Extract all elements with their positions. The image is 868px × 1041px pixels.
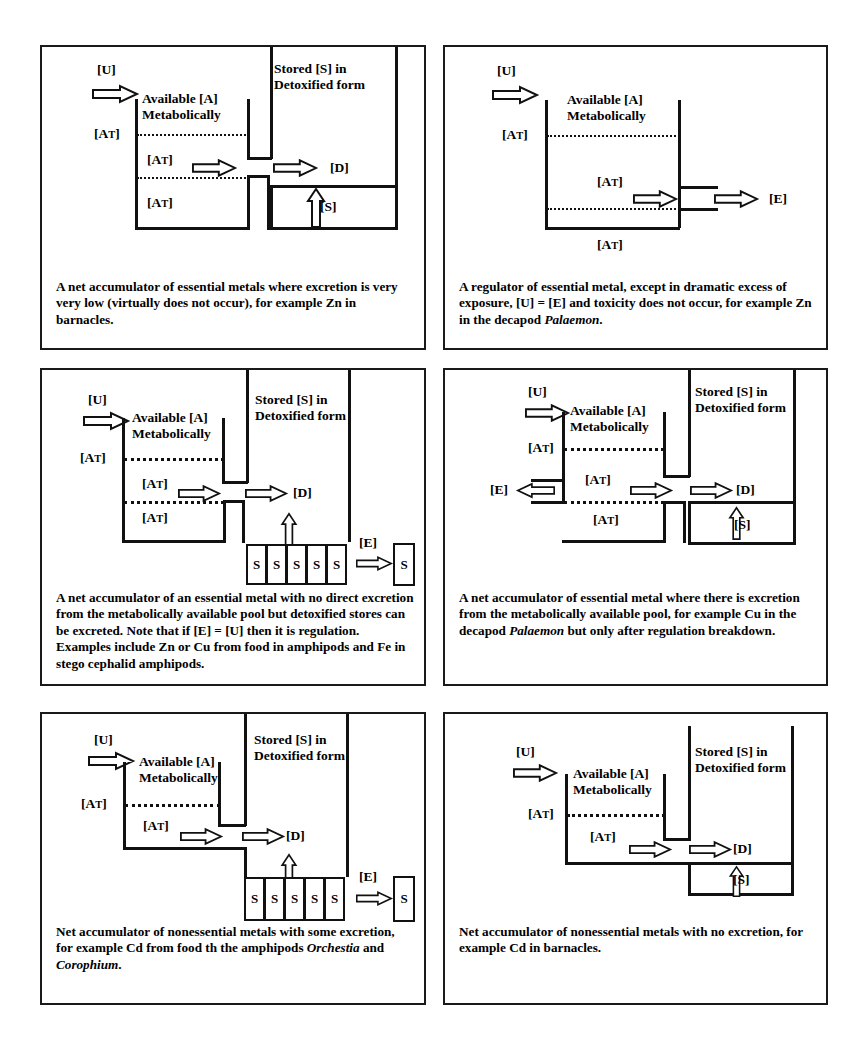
panel-4-stored-label: [S]	[734, 517, 751, 532]
pool-left-notch-lower	[531, 501, 565, 504]
store-block-label: S	[291, 891, 298, 907]
panel-5-at-middle: [AT]	[143, 818, 169, 834]
panel-2-caption-part-1: A regulator of essential metal, except i…	[459, 279, 812, 327]
store-block: S	[286, 544, 307, 585]
panel-6-pool-title: Available [A] Metabolically	[573, 766, 695, 797]
store-block-label: S	[293, 557, 300, 573]
panel-3-pool-title: Available [A] Metabolically	[132, 410, 252, 441]
pool-title-line1: Available [A]	[567, 92, 643, 107]
panel-4-diagram: [U] Available [A] Metabolically Stored […	[445, 370, 826, 585]
pool-gap-right-wall	[683, 501, 686, 543]
threshold-line-upper	[137, 134, 249, 136]
panel-4-excretion-label: [E]	[490, 482, 508, 497]
detox-flow-arrow-1-icon	[629, 841, 671, 858]
panel-1: [U] Available [A] Metabolically Stored […	[40, 45, 426, 350]
panel-2: [U] Available [A] Metabolically [AT] [AT…	[443, 45, 828, 350]
excretion-flow-arrow-2-icon	[714, 190, 758, 208]
store-block-label: S	[400, 557, 407, 573]
detox-flow-arrow-2-icon	[245, 485, 287, 502]
store-column-left-wall	[270, 47, 273, 159]
panel-5-caption-part-3: and	[360, 940, 385, 955]
excreted-store-block: S	[393, 876, 415, 922]
pool-right-wall-lower	[678, 186, 681, 228]
pool-left-wall-upper	[562, 412, 565, 481]
pool-title-line1: Available [A]	[139, 754, 215, 769]
pool-title-line2: Metabolically	[142, 107, 221, 122]
pool-title-line2: Metabolically	[139, 770, 218, 785]
detox-flow-arrow-1-icon	[192, 159, 236, 177]
panel-3-at-upper: [AT]	[80, 450, 106, 466]
panel-4-at-upper: [AT]	[528, 440, 554, 456]
detox-flow-arrow-2-icon	[689, 841, 731, 858]
pool-title-line1: Available [A]	[132, 410, 208, 425]
pool-title-line2: Metabolically	[570, 419, 649, 434]
panel-5-at-upper: [AT]	[81, 796, 107, 812]
panel-1-uptake-label: [U]	[97, 62, 116, 77]
panel-1-caption: A net accumulator of essential metals wh…	[56, 279, 414, 328]
panel-2-excretion-label: [E]	[769, 191, 787, 206]
store-column-left-lower	[244, 847, 247, 877]
panel-6: [U] Available [A] Metabolically Stored […	[443, 712, 828, 1005]
store-block: S	[304, 877, 325, 921]
panel-2-at-middle: [AT]	[597, 174, 623, 190]
store-title-line2: Detoxified form	[695, 760, 786, 775]
pool-right-wall-foot	[218, 824, 246, 827]
panel-1-detox-label: [D]	[330, 160, 349, 175]
pool-right-wall	[218, 762, 221, 826]
excretion-arrow-icon	[356, 890, 392, 907]
detox-flow-arrow-1-icon	[180, 828, 222, 845]
threshold-line-lower	[547, 208, 680, 210]
panel-6-detox-label: [D]	[733, 841, 752, 856]
excreted-store-block: S	[393, 543, 415, 586]
store-release-up-arrow-icon	[280, 513, 298, 547]
store-right-wall	[791, 726, 794, 896]
pool-left-wall	[135, 99, 138, 230]
store-block: S	[244, 877, 265, 921]
panel-3-diagram: [U] Available [A] Metabolically Stored […	[42, 370, 424, 585]
panel-2-pool-title: Available [A] Metabolically	[567, 92, 692, 123]
store-block-label: S	[331, 891, 338, 907]
panel-1-pool-title: Available [A] Metabolically	[142, 91, 262, 122]
store-fill-level	[270, 185, 398, 188]
panel-6-uptake-label: [U]	[516, 744, 535, 759]
pool-floor	[565, 862, 688, 865]
panel-3-uptake-label: [U]	[88, 392, 107, 407]
pool-gap-right-wall	[242, 500, 245, 543]
panel-5-caption-part-5: .	[118, 957, 121, 972]
panel-2-caption-part-3: .	[599, 312, 602, 327]
store-left-lower-wall	[270, 185, 273, 230]
pool-right-wall-foot	[222, 481, 248, 484]
pool-floor	[545, 227, 680, 230]
panel-3-detox-label: [D]	[293, 485, 312, 500]
store-block-label: S	[251, 891, 258, 907]
store-block: S	[324, 877, 345, 921]
panel-4: [U] Available [A] Metabolically Stored […	[443, 368, 828, 686]
pool-right-wall	[247, 99, 250, 159]
store-title-line1: Stored [S] in	[254, 732, 327, 747]
panel-5-caption-species-2: Corophium	[56, 957, 118, 972]
panel-5-pool-title: Available [A] Metabolically	[139, 754, 259, 785]
panel-6-at-middle: [AT]	[590, 829, 616, 845]
pool-title-line2: Metabolically	[132, 426, 211, 441]
excretion-arrow-icon	[356, 555, 392, 572]
threshold-line-upper	[547, 135, 680, 137]
pool-floor	[122, 540, 225, 543]
store-block-label: S	[400, 891, 407, 907]
panel-6-diagram: [U] Available [A] Metabolically Stored […	[445, 714, 826, 914]
panel-3-caption: A net accumulator of an essential metal …	[56, 590, 414, 672]
store-title-line2: Detoxified form	[695, 400, 786, 415]
store-fill-level	[688, 501, 796, 504]
store-block-label: S	[313, 557, 320, 573]
pool-title-line1: Available [A]	[142, 91, 218, 106]
pool-right-wall-upper	[678, 100, 681, 188]
panel-6-caption: Net accumulator of nonessential metals w…	[459, 924, 816, 957]
threshold-line	[567, 814, 665, 817]
panel-4-store-title: Stored [S] in Detoxified form	[695, 384, 830, 415]
store-column-left-wall	[244, 714, 247, 826]
panel-5-store-title: Stored [S] in Detoxified form	[254, 732, 392, 763]
store-floor	[688, 542, 796, 545]
detox-flow-arrow-1-icon	[178, 485, 220, 502]
pool-left-wall-lower	[562, 479, 565, 503]
panel-4-at-middle: [AT]	[585, 472, 611, 488]
threshold-line-upper	[564, 448, 664, 451]
